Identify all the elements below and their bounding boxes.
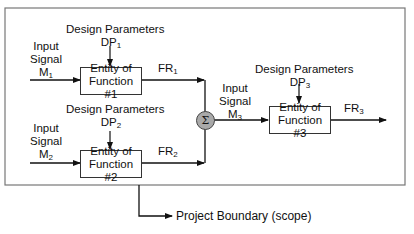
design-params-2-label: Design Parameters DP2 bbox=[66, 103, 156, 132]
entity-function-3: Entity of Function #3 bbox=[269, 106, 331, 134]
output-fr2-label: FR2 bbox=[158, 145, 178, 161]
input-signal-2-label: Input Signal M2 bbox=[26, 122, 66, 164]
input-signal-1-label: Input Signal M1 bbox=[26, 40, 66, 82]
entity-function-1: Entity of Function #1 bbox=[80, 67, 142, 95]
entity-function-2: Entity of Function #2 bbox=[80, 150, 142, 178]
output-fr3-label: FR3 bbox=[344, 102, 364, 118]
design-params-1-label: Design Parameters DP1 bbox=[66, 23, 156, 52]
design-params-3-label: Design Parameters DP3 bbox=[255, 63, 345, 92]
summation-node-icon: Σ bbox=[196, 111, 215, 130]
project-boundary-label: Project Boundary (scope) bbox=[176, 209, 311, 223]
output-fr1-label: FR1 bbox=[158, 62, 178, 78]
input-signal-3-label: Input Signal M3 bbox=[215, 82, 255, 124]
